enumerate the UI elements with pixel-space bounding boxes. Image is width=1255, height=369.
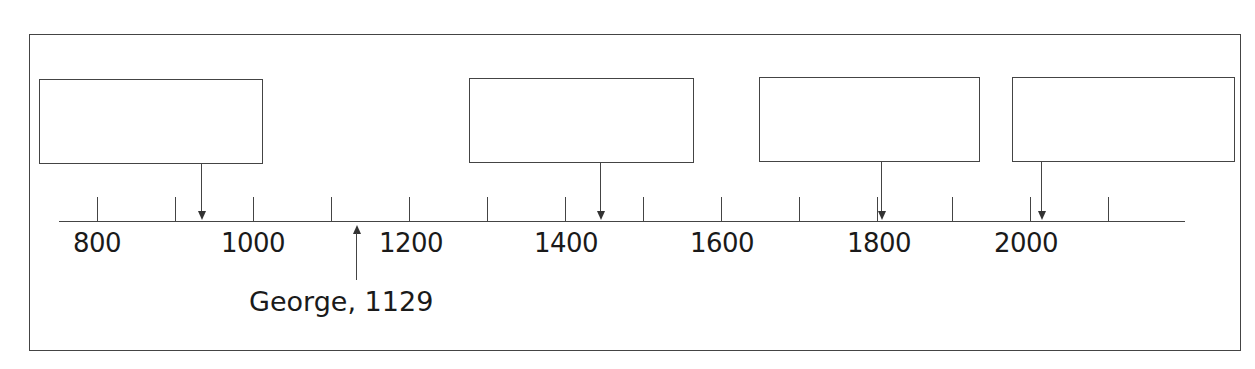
- arrow-down-icon: [1038, 211, 1046, 220]
- axis-label-1000: 1000: [221, 228, 285, 258]
- axis-label-1600: 1600: [690, 228, 754, 258]
- arrow-down-icon: [597, 211, 605, 220]
- axis-label-1200: 1200: [379, 228, 443, 258]
- axis-label-1400: 1400: [534, 228, 598, 258]
- arrow-down-icon: [198, 211, 206, 220]
- tick-2100: [1108, 197, 1109, 221]
- connector-box-1: [201, 163, 202, 211]
- tick-1700: [799, 197, 800, 221]
- annotation-george: George, 1129: [249, 286, 433, 317]
- tick-1000: [253, 197, 254, 221]
- tick-2000: [1030, 197, 1031, 221]
- blank-box-3[interactable]: [759, 77, 980, 162]
- blank-box-1[interactable]: [39, 79, 263, 164]
- connector-box-3: [881, 161, 882, 211]
- blank-box-2[interactable]: [469, 78, 694, 163]
- blank-box-4[interactable]: [1012, 77, 1235, 162]
- axis-label-800: 800: [73, 228, 121, 258]
- tick-900: [175, 197, 176, 221]
- tick-1900: [952, 197, 953, 221]
- tick-1100: [331, 197, 332, 221]
- tick-1800: [877, 197, 878, 221]
- tick-1200: [409, 197, 410, 221]
- tick-1300: [487, 197, 488, 221]
- axis-label-1800: 1800: [847, 228, 911, 258]
- tick-1400: [565, 197, 566, 221]
- annotation-connector: [356, 233, 357, 280]
- arrow-down-icon: [878, 211, 886, 220]
- tick-800: [97, 197, 98, 221]
- tick-1500: [643, 197, 644, 221]
- connector-box-2: [600, 162, 601, 211]
- connector-box-4: [1041, 161, 1042, 211]
- timeline-axis: [59, 221, 1185, 222]
- tick-1600: [721, 197, 722, 221]
- axis-label-2000: 2000: [994, 228, 1058, 258]
